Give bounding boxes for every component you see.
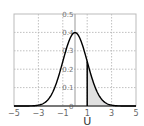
y-tick-label: 0.3 [62,47,73,55]
x-tick-label: 3 [109,109,114,118]
y-tick-label: 0.1 [62,84,73,92]
chart: 00.10.20.30.40.5 −5−3−1135 U [0,0,144,126]
x-tick-label: −1 [57,109,69,118]
x-tick-label: −3 [33,109,45,118]
x-tick-label: −5 [8,109,20,118]
x-tick-label: 5 [133,109,138,118]
x-axis-label: U [83,115,91,126]
y-tick-label: 0.5 [62,11,73,19]
y-tick-label: 0.4 [62,29,74,37]
y-tick-label: 0.2 [62,66,73,74]
